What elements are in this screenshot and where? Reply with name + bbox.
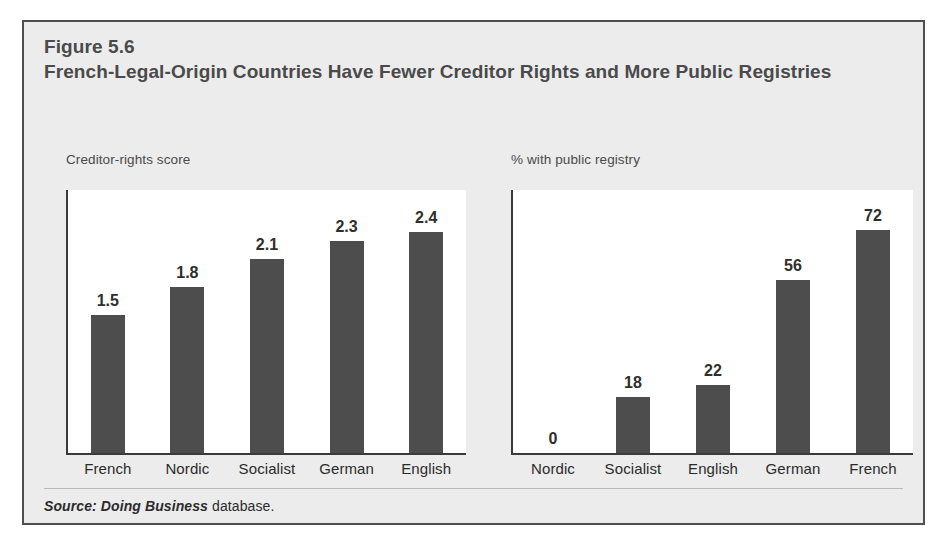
- category-axis-label: Socialist: [593, 460, 673, 482]
- left-bar-group: 1.51.82.12.32.4: [68, 190, 466, 453]
- bar-slot: 2.1: [227, 190, 307, 453]
- bar-rect: [776, 280, 810, 453]
- category-axis-label: Nordic: [148, 460, 228, 482]
- bar-value-label: 0: [549, 431, 558, 447]
- category-axis-label: Nordic: [513, 460, 593, 482]
- bar-rect: [170, 287, 204, 453]
- left-chart-plot-area: 1.51.82.12.32.4: [66, 190, 466, 455]
- category-axis-label: German: [753, 460, 833, 482]
- source-note-roman: database.: [208, 498, 274, 514]
- left-x-axis-line: [66, 453, 466, 455]
- bar-rect: [250, 259, 284, 453]
- category-axis-label: English: [386, 460, 466, 482]
- category-axis-label: Socialist: [227, 460, 307, 482]
- category-axis-label: French: [833, 460, 913, 482]
- bar-value-label: 2.1: [256, 237, 278, 253]
- bar-slot: 18: [593, 190, 673, 453]
- bar-value-label: 1.5: [97, 293, 119, 309]
- right-chart-plot-area: 018225672: [511, 190, 913, 455]
- bar-slot: 1.8: [148, 190, 228, 453]
- category-axis-label: French: [68, 460, 148, 482]
- left-chart-axis-caption: Creditor-rights score: [66, 152, 190, 167]
- source-divider: [44, 488, 903, 489]
- source-note-italic: Source: Doing Business: [44, 498, 208, 514]
- right-bar-group: 018225672: [513, 190, 913, 453]
- bar-value-label: 72: [864, 208, 882, 224]
- bar-rect: [91, 315, 125, 453]
- bar-slot: 0: [513, 190, 593, 453]
- bar-slot: 72: [833, 190, 913, 453]
- right-x-axis-line: [511, 453, 913, 455]
- figure-header: Figure 5.6 French-Legal-Origin Countries…: [44, 34, 904, 84]
- bar-value-label: 56: [784, 258, 802, 274]
- bar-value-label: 2.4: [415, 210, 437, 226]
- figure-panel: Figure 5.6 French-Legal-Origin Countries…: [22, 20, 925, 525]
- bar-slot: 2.3: [307, 190, 387, 453]
- bar-rect: [856, 230, 890, 453]
- bar-value-label: 18: [624, 375, 642, 391]
- bar-slot: 1.5: [68, 190, 148, 453]
- bar-slot: 22: [673, 190, 753, 453]
- right-chart-axis-caption: % with public registry: [511, 152, 640, 167]
- figure-title: French-Legal-Origin Countries Have Fewer…: [44, 59, 889, 84]
- right-plot-canvas: 018225672: [511, 190, 913, 455]
- left-category-axis-labels: FrenchNordicSocialistGermanEnglish: [68, 460, 466, 482]
- bar-slot: 56: [753, 190, 833, 453]
- right-category-axis-labels: NordicSocialistEnglishGermanFrench: [513, 460, 913, 482]
- bar-slot: 2.4: [386, 190, 466, 453]
- bar-value-label: 22: [704, 363, 722, 379]
- category-axis-label: English: [673, 460, 753, 482]
- figure-number: Figure 5.6: [44, 34, 904, 59]
- bar-rect: [616, 397, 650, 453]
- category-axis-label: German: [307, 460, 387, 482]
- bar-value-label: 2.3: [335, 219, 357, 235]
- bar-rect: [409, 232, 443, 453]
- source-note: Source: Doing Business database.: [44, 498, 274, 514]
- bar-rect: [696, 385, 730, 453]
- bar-value-label: 1.8: [176, 265, 198, 281]
- left-plot-canvas: 1.51.82.12.32.4: [66, 190, 466, 455]
- bar-rect: [330, 241, 364, 453]
